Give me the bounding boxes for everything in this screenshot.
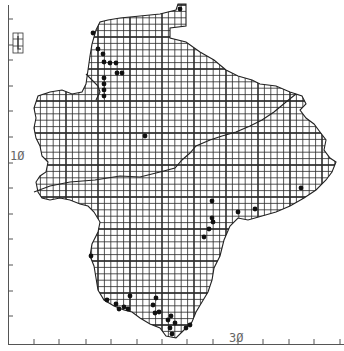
record-dot xyxy=(101,52,106,57)
record-dot xyxy=(151,303,156,308)
record-dot xyxy=(96,47,101,52)
record-dot xyxy=(211,220,216,225)
record-dot xyxy=(102,60,107,65)
record-dot xyxy=(153,311,158,316)
record-dot xyxy=(126,307,131,312)
record-dot xyxy=(143,134,148,139)
record-dot xyxy=(170,332,175,337)
record-dot xyxy=(117,307,122,312)
record-dot xyxy=(169,314,174,319)
inset-grid-box xyxy=(13,33,23,53)
record-dot xyxy=(114,302,119,307)
record-dot xyxy=(120,71,125,76)
record-dot xyxy=(102,94,107,99)
record-dot xyxy=(210,216,215,221)
record-dot xyxy=(299,186,304,191)
record-dot xyxy=(207,227,212,232)
left-axis-label: 1Ø xyxy=(10,149,24,163)
distribution-map xyxy=(0,0,344,351)
record-dot xyxy=(102,88,107,93)
record-dot xyxy=(168,326,173,331)
record-dot xyxy=(102,82,107,87)
record-dot xyxy=(178,7,183,12)
record-dot xyxy=(105,298,110,303)
record-dot xyxy=(157,310,162,315)
record-dot xyxy=(173,321,178,326)
record-dot xyxy=(108,61,113,66)
record-dot xyxy=(166,318,171,323)
record-dot xyxy=(202,235,207,240)
record-dot xyxy=(128,294,133,299)
record-dot xyxy=(253,207,258,212)
record-dot xyxy=(184,326,189,331)
record-dot xyxy=(102,76,107,81)
internal-boundary-line xyxy=(34,94,296,192)
record-dot xyxy=(236,210,241,215)
record-dot xyxy=(91,31,96,36)
record-dot xyxy=(89,254,94,259)
record-dot xyxy=(115,71,120,76)
bottom-axis-label: 3Ø xyxy=(229,331,243,345)
record-dot xyxy=(154,296,159,301)
tetrad-grid xyxy=(0,0,344,351)
record-dot xyxy=(114,61,119,66)
record-dot xyxy=(188,323,193,328)
record-dot xyxy=(210,199,215,204)
